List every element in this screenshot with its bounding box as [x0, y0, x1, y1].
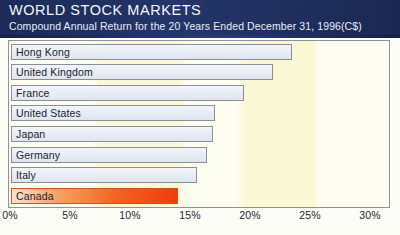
bar-row: United Kingdom [9, 63, 390, 83]
bar-label: Canada [16, 188, 54, 204]
bar-row: Italy [9, 166, 390, 186]
bar-row: Japan [9, 125, 390, 145]
bar-label: Japan [16, 126, 45, 142]
bar-row: United States [9, 104, 390, 124]
bar-label: Italy [16, 167, 36, 183]
x-axis-tick-label: 0% [2, 209, 17, 221]
chart-card: WORLD STOCK MARKETS Compound Annual Retu… [0, 0, 400, 235]
bar-label: France [16, 85, 50, 101]
bar-row: France [9, 84, 390, 104]
bar-row: Germany [9, 146, 390, 166]
bar-label: United Kingdom [16, 64, 93, 80]
bar-label: United States [16, 105, 81, 121]
x-axis-tick-label: 20% [239, 209, 260, 221]
x-axis-tick-label: 25% [299, 209, 320, 221]
x-axis-tick-label: 10% [119, 209, 140, 221]
bar-label: Germany [16, 147, 60, 163]
chart-header-band: WORLD STOCK MARKETS Compound Annual Retu… [0, 0, 400, 38]
bar-row: Canada [9, 187, 390, 207]
x-axis-tick-label: 15% [179, 209, 200, 221]
bar-series: Hong KongUnited KingdomFranceUnited Stat… [9, 41, 389, 207]
x-axis: 0%5%10%15%20%25%30% [8, 209, 390, 225]
footnote [9, 226, 309, 235]
plot-area: Hong KongUnited KingdomFranceUnited Stat… [8, 40, 390, 208]
bar-row: Hong Kong [9, 43, 390, 63]
x-axis-tick-label: 30% [359, 209, 380, 221]
bar-label: Hong Kong [16, 44, 70, 60]
chart-subtitle: Compound Annual Return for the 20 Years … [9, 20, 362, 32]
x-axis-tick-label: 5% [62, 209, 77, 221]
bar-italy [11, 167, 197, 183]
page-title: WORLD STOCK MARKETS [9, 2, 201, 18]
